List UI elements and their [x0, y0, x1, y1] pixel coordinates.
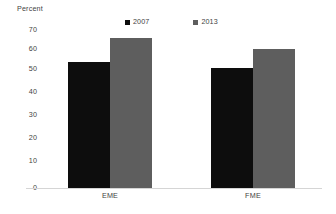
legend-label-2013: 2013 [201, 18, 217, 25]
plot-area [40, 29, 322, 188]
bar-fme-2007[interactable] [211, 68, 253, 188]
x-category-label-eme: EME [86, 192, 134, 199]
legend-label-2007: 2007 [133, 18, 149, 25]
legend-swatch-icon-2013 [193, 20, 198, 25]
bar-chart: Percent 2007 2013 70 60 50 40 30 20 10 0… [0, 0, 336, 214]
y-tick-label-60: 60 [7, 45, 37, 52]
legend-item-2007[interactable]: 2007 [125, 16, 149, 28]
legend-item-2013[interactable]: 2013 [193, 16, 217, 28]
y-tick-label-20: 20 [7, 134, 37, 141]
chart-legend: 2007 2013 [125, 16, 218, 28]
x-axis-line [26, 188, 322, 189]
y-tick-label-10: 10 [7, 157, 37, 164]
legend-swatch-icon-2007 [125, 20, 130, 25]
x-category-label-fme: FME [229, 192, 277, 199]
y-tick-label-40: 40 [7, 88, 37, 95]
y-axis-title: Percent [17, 4, 43, 13]
bar-eme-2007[interactable] [68, 62, 110, 188]
y-tick-label-50: 50 [7, 65, 37, 72]
y-tick-label-30: 30 [7, 111, 37, 118]
y-tick-label-70: 70 [7, 26, 37, 33]
bar-eme-2013[interactable] [110, 38, 152, 188]
bar-fme-2013[interactable] [253, 49, 295, 188]
